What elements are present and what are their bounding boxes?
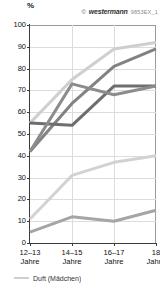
x-label-line-1: 18 <box>152 248 160 257</box>
x-axis-tick <box>72 243 73 246</box>
series-line <box>30 42 156 123</box>
y-axis-tick-label: 50 <box>18 130 26 138</box>
y-axis-tick-label: 0 <box>22 239 26 247</box>
x-label-line-2: Jahre <box>147 257 160 266</box>
series-line <box>30 210 156 232</box>
x-label-line-1: 12–13 <box>20 248 41 257</box>
legend-label: Duft (Mädchen) <box>33 274 81 283</box>
y-axis-tick-label: 30 <box>18 174 26 182</box>
line-chart: % © westermann 9853EX_1 0102030405060708… <box>0 0 160 283</box>
x-axis-tick-label: 14–15Jahre <box>62 248 83 266</box>
y-axis-unit-label: % <box>27 1 34 10</box>
y-axis-tick-label: 10 <box>18 217 26 225</box>
copyright-icon: © <box>81 9 85 16</box>
figure-code: 9853EX_1 <box>131 9 158 16</box>
y-axis-tick-label: 90 <box>18 43 26 51</box>
publisher-name: westermann <box>89 8 128 16</box>
x-axis-line <box>29 243 156 244</box>
x-axis-tick-label: 12–13Jahre <box>20 248 41 266</box>
x-axis-tick-label: 16–17Jahre <box>104 248 125 266</box>
y-axis-tick-label: 60 <box>18 108 26 116</box>
plot-area: 0102030405060708090100 <box>30 25 156 243</box>
x-label-line-1: 14–15 <box>62 248 83 257</box>
x-axis-tick <box>30 243 31 246</box>
series-line <box>30 84 156 152</box>
legend: Duft (Mädchen) <box>14 273 81 283</box>
x-label-line-2: Jahre <box>104 257 125 266</box>
series-line <box>30 156 156 219</box>
x-axis-tick-label: 18Jahre <box>147 248 160 266</box>
x-label-line-1: 16–17 <box>104 248 125 257</box>
x-label-line-2: Jahre <box>62 257 83 266</box>
series-layer <box>30 25 156 243</box>
y-axis-tick-label: 20 <box>18 195 26 203</box>
y-axis-tick-label: 100 <box>13 21 26 29</box>
legend-swatch-icon <box>14 277 29 280</box>
x-axis-tick <box>156 243 157 246</box>
x-label-line-2: Jahre <box>20 257 41 266</box>
copyright-credit: © westermann 9853EX_1 <box>81 8 158 16</box>
y-axis-tick-label: 70 <box>18 86 26 94</box>
y-axis-tick-label: 40 <box>18 152 26 160</box>
y-axis-tick-label: 80 <box>18 65 26 73</box>
x-axis-tick <box>114 243 115 246</box>
